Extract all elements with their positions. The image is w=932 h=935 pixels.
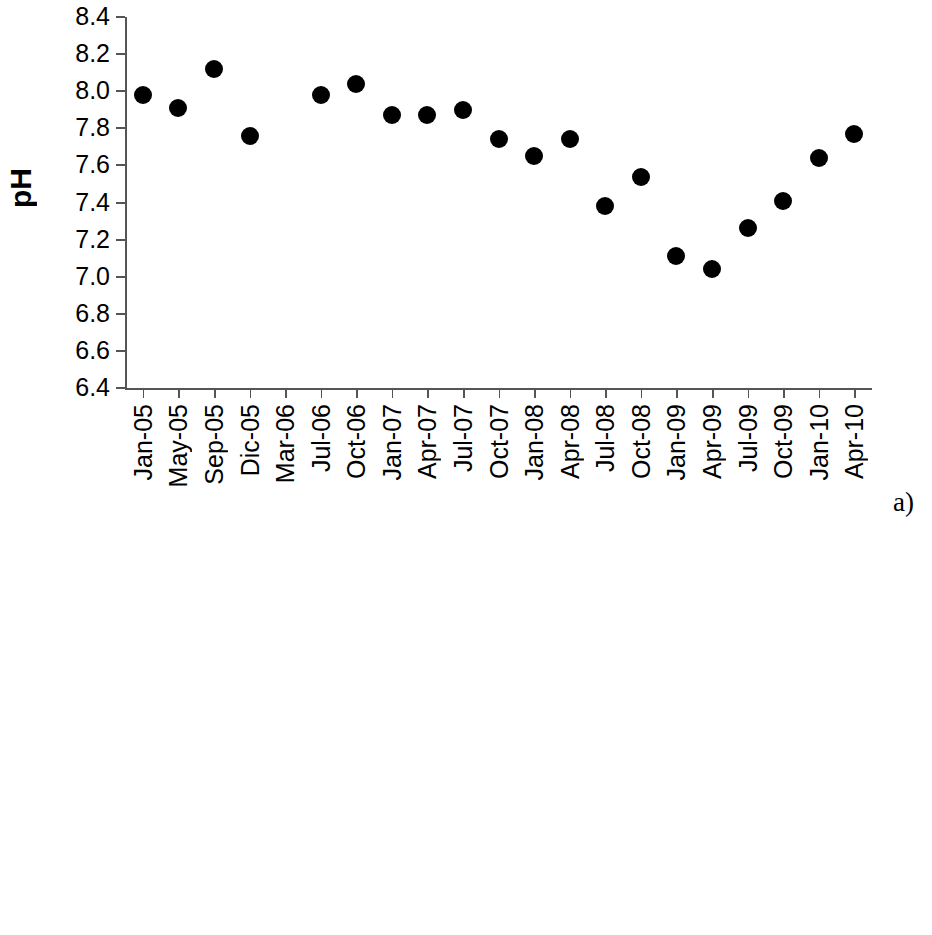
ph-x-tick bbox=[605, 388, 607, 398]
ph-data-point bbox=[561, 130, 579, 148]
ph-y-tick bbox=[116, 90, 125, 92]
ph-y-tick-label: 8.0 bbox=[5, 78, 110, 103]
ph-data-point bbox=[525, 147, 543, 165]
panel-a-tag: a) bbox=[893, 487, 914, 518]
ph-x-tick bbox=[748, 388, 750, 398]
ph-x-tick bbox=[712, 388, 714, 398]
ph-x-tick bbox=[463, 388, 465, 398]
ph-x-tick-label: Jul-08 bbox=[591, 404, 620, 472]
ph-y-tick bbox=[116, 16, 125, 18]
ph-x-tick-label: Oct-07 bbox=[485, 404, 514, 479]
ph-data-point bbox=[739, 219, 757, 237]
do-boxplot-chart: DO% 140120100806040200 May-05Sep-05Dic-0… bbox=[0, 545, 932, 935]
ph-data-point bbox=[774, 192, 792, 210]
ph-y-tick bbox=[116, 239, 125, 241]
ph-x-tick-label: Jan-10 bbox=[805, 404, 834, 480]
ph-data-point bbox=[810, 149, 828, 167]
ph-x-tick bbox=[783, 388, 785, 398]
ph-y-tick-label: 7.0 bbox=[5, 264, 110, 289]
ph-data-point bbox=[596, 197, 614, 215]
ph-x-tick-label: Jul-07 bbox=[449, 404, 478, 472]
ph-y-tick bbox=[116, 164, 125, 166]
ph-x-tick bbox=[427, 388, 429, 398]
ph-y-tick bbox=[116, 313, 125, 315]
ph-data-point bbox=[312, 86, 330, 104]
ph-x-tick bbox=[250, 388, 252, 398]
ph-data-point bbox=[490, 130, 508, 148]
ph-data-point bbox=[169, 99, 187, 117]
ph-y-tick bbox=[116, 127, 125, 129]
ph-x-tick bbox=[854, 388, 856, 398]
ph-x-tick bbox=[143, 388, 145, 398]
ph-x-tick-label: May-05 bbox=[164, 404, 193, 487]
ph-x-tick-label: Jan-05 bbox=[129, 404, 158, 480]
ph-data-point bbox=[134, 86, 152, 104]
ph-x-tick-label: Apr-10 bbox=[840, 404, 869, 479]
ph-y-tick bbox=[116, 387, 125, 389]
ph-data-point bbox=[383, 106, 401, 124]
ph-data-point bbox=[703, 260, 721, 278]
ph-x-tick bbox=[392, 388, 394, 398]
ph-data-point bbox=[845, 125, 863, 143]
ph-y-tick-label: 7.6 bbox=[5, 152, 110, 177]
ph-x-tick-label: Jul-09 bbox=[734, 404, 763, 472]
ph-y-tick-label: 8.4 bbox=[5, 4, 110, 29]
ph-y-tick bbox=[116, 53, 125, 55]
ph-x-tick bbox=[214, 388, 216, 398]
ph-x-tick-label: Apr-09 bbox=[698, 404, 727, 479]
ph-y-axis-line bbox=[125, 17, 127, 388]
ph-y-tick-label: 6.6 bbox=[5, 338, 110, 363]
ph-data-point bbox=[667, 247, 685, 265]
ph-x-tick bbox=[676, 388, 678, 398]
ph-x-tick-label: Jan-07 bbox=[378, 404, 407, 480]
ph-x-tick bbox=[819, 388, 821, 398]
ph-x-tick-label: Oct-09 bbox=[769, 404, 798, 479]
ph-y-tick-label: 7.2 bbox=[5, 227, 110, 252]
ph-x-tick-label: Jan-09 bbox=[662, 404, 691, 480]
ph-y-tick-label: 6.4 bbox=[5, 375, 110, 400]
ph-data-point bbox=[205, 60, 223, 78]
ph-scatter-chart: pH 8.48.28.07.87.67.47.27.06.86.66.4 Jan… bbox=[0, 0, 932, 530]
ph-x-tick bbox=[534, 388, 536, 398]
ph-y-tick-label: 7.4 bbox=[5, 190, 110, 215]
ph-y-tick-label: 7.8 bbox=[5, 115, 110, 140]
ph-x-tick bbox=[570, 388, 572, 398]
ph-data-point bbox=[241, 127, 259, 145]
ph-x-tick bbox=[285, 388, 287, 398]
ph-x-tick bbox=[356, 388, 358, 398]
ph-y-tick-label: 6.8 bbox=[5, 301, 110, 326]
ph-x-tick-label: Dic-05 bbox=[236, 404, 265, 476]
ph-x-tick-label: Sep-05 bbox=[200, 404, 229, 485]
ph-x-tick-label: Mar-06 bbox=[271, 404, 300, 483]
ph-x-tick-label: Apr-08 bbox=[556, 404, 585, 479]
ph-x-tick-label: Oct-06 bbox=[342, 404, 371, 479]
ph-data-point bbox=[632, 168, 650, 186]
ph-x-tick-label: Jul-06 bbox=[307, 404, 336, 472]
ph-x-tick bbox=[321, 388, 323, 398]
ph-x-tick bbox=[641, 388, 643, 398]
ph-x-tick bbox=[178, 388, 180, 398]
ph-data-point bbox=[454, 101, 472, 119]
ph-data-point bbox=[418, 106, 436, 124]
ph-x-tick bbox=[499, 388, 501, 398]
ph-data-point bbox=[347, 75, 365, 93]
ph-y-tick-label: 8.2 bbox=[5, 41, 110, 66]
ph-x-tick-label: Oct-08 bbox=[627, 404, 656, 479]
ph-y-tick bbox=[116, 350, 125, 352]
ph-x-tick-label: Apr-07 bbox=[413, 404, 442, 479]
ph-x-tick-label: Jan-08 bbox=[520, 404, 549, 480]
ph-y-tick bbox=[116, 202, 125, 204]
ph-y-tick bbox=[116, 276, 125, 278]
